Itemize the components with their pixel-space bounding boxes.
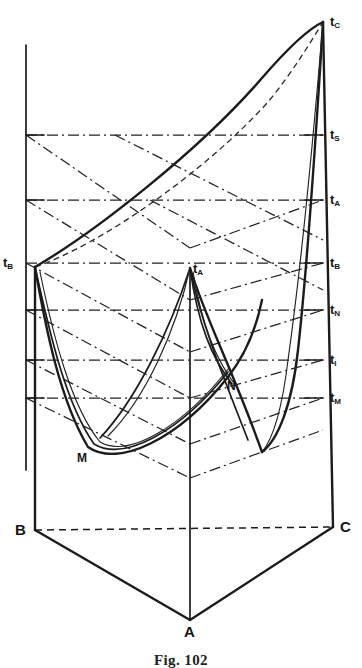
vertex-label-b: B: [15, 522, 26, 537]
liquidus-boundary-curves: [35, 22, 323, 452]
point-label-m: M: [77, 452, 87, 464]
temp-label-ta-center: tA: [193, 262, 203, 275]
temp-label-ti-sub: I: [334, 359, 336, 368]
vertex-label-a: A: [184, 624, 195, 639]
isotherm-horizontal-lines: [26, 135, 323, 398]
temp-label-ti: tI: [330, 353, 336, 366]
temp-label-tc: tC: [330, 15, 340, 28]
temp-label-tb-left-sub: B: [7, 262, 13, 271]
temp-label-ts-sub: S: [334, 134, 339, 143]
temp-label-tb-right: tB: [330, 256, 340, 269]
temp-label-ta-right: tA: [330, 193, 340, 206]
vertex-label-c: C: [340, 519, 351, 534]
figure-root: .hv{fill:none;stroke:#1b1b1b;stroke-widt…: [0, 0, 362, 668]
point-label-n: N: [227, 380, 236, 392]
figure-caption: Fig. 102: [0, 652, 362, 668]
temp-label-tn: tN: [330, 303, 340, 316]
isotherm-ticks: [26, 135, 323, 398]
temp-label-ts: tS: [330, 128, 340, 141]
temp-label-ta-right-sub: A: [334, 199, 340, 208]
prism-base-outline: [35, 527, 333, 620]
phase-diagram-svg: .hv{fill:none;stroke:#1b1b1b;stroke-widt…: [0, 0, 362, 668]
temp-label-tm: tM: [330, 391, 341, 404]
temp-label-tb-left: tB: [3, 256, 13, 269]
temp-label-tc-sub: C: [334, 21, 340, 30]
temp-label-ta-center-sub: A: [197, 268, 203, 277]
temp-label-tm-sub: M: [334, 397, 341, 406]
temp-label-tb-right-sub: B: [334, 262, 340, 271]
temp-label-tn-sub: N: [334, 309, 340, 318]
